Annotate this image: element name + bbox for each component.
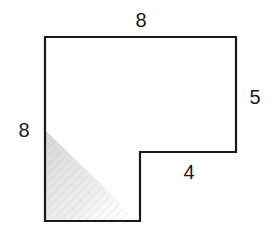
top-side-label: 8: [135, 10, 146, 30]
right-side-label: 5: [249, 87, 260, 107]
left-side-label: 8: [18, 120, 29, 140]
inner-step-label: 4: [183, 162, 194, 182]
l-shape-diagram: [0, 0, 276, 234]
